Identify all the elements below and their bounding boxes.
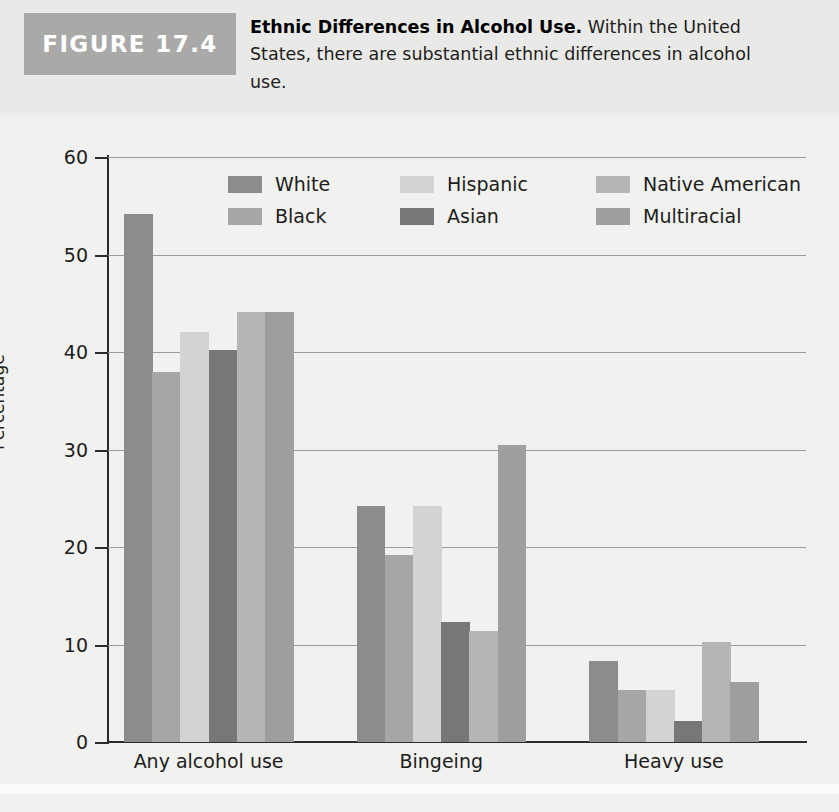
legend-item: Multiracial — [596, 200, 816, 232]
bar — [385, 555, 414, 742]
x-axis-category-label: Bingeing — [400, 750, 484, 772]
x-axis-category-label: Heavy use — [624, 750, 724, 772]
figure-caption: Ethnic Differences in Alcohol Use. Withi… — [250, 14, 790, 96]
bar — [730, 682, 759, 742]
legend-label: Native American — [643, 173, 801, 195]
legend-label: Black — [275, 205, 326, 227]
y-axis-tick — [95, 742, 108, 744]
bar — [646, 690, 675, 742]
figure-number-badge: FIGURE 17.4 — [24, 13, 236, 75]
legend-label: White — [275, 173, 330, 195]
legend-item: White — [228, 168, 400, 200]
legend-swatch-icon — [228, 176, 262, 193]
y-axis-tick-label: 20 — [46, 536, 88, 558]
bar — [618, 690, 647, 742]
legend-swatch-icon — [400, 176, 434, 193]
bar — [441, 622, 470, 742]
figure-page: FIGURE 17.4 Ethnic Differences in Alcoho… — [0, 0, 839, 812]
bar — [498, 445, 527, 742]
bar — [674, 721, 703, 742]
legend-swatch-icon — [596, 176, 630, 193]
y-axis-tick-label: 30 — [46, 439, 88, 461]
legend-label: Asian — [447, 205, 499, 227]
legend-item: Black — [228, 200, 400, 232]
legend-row: BlackAsianMultiracial — [228, 200, 818, 232]
y-axis-tick-label: 40 — [46, 341, 88, 363]
x-axis-category-label: Any alcohol use — [134, 750, 284, 772]
y-axis-tick — [95, 645, 108, 647]
legend-label: Multiracial — [643, 205, 742, 227]
y-axis-tick-label: 50 — [46, 244, 88, 266]
figure-number-label: FIGURE 17.4 — [42, 31, 217, 57]
y-axis-tick-label: 10 — [46, 634, 88, 656]
y-axis-tick — [95, 450, 108, 452]
figure-caption-title: Ethnic Differences in Alcohol Use. — [250, 17, 582, 37]
bar — [152, 372, 181, 743]
y-axis-tick — [95, 255, 108, 257]
legend-label: Hispanic — [447, 173, 528, 195]
bar — [357, 506, 386, 742]
bar — [124, 214, 153, 742]
legend-swatch-icon — [596, 208, 630, 225]
figure-footer-band — [0, 778, 839, 812]
legend-swatch-icon — [228, 208, 262, 225]
bar — [589, 661, 618, 742]
y-axis-tick — [95, 157, 108, 159]
y-axis-tick-label: 60 — [46, 146, 88, 168]
bar — [702, 642, 731, 742]
figure-header-band: FIGURE 17.4 Ethnic Differences in Alcoho… — [0, 0, 839, 118]
y-axis-tick — [95, 352, 108, 354]
bar — [209, 350, 238, 742]
legend-swatch-icon — [400, 208, 434, 225]
plot-area — [108, 157, 806, 742]
y-axis-title: Percentage — [0, 354, 8, 450]
bar — [265, 312, 294, 742]
bar — [469, 631, 498, 742]
bar — [413, 506, 442, 742]
bar — [180, 332, 209, 742]
legend-item: Hispanic — [400, 168, 596, 200]
legend-item: Asian — [400, 200, 596, 232]
bar — [237, 312, 266, 742]
y-axis-tick-label: 0 — [46, 731, 88, 753]
chart-legend: WhiteHispanicNative AmericanBlackAsianMu… — [228, 168, 818, 232]
legend-row: WhiteHispanicNative American — [228, 168, 818, 200]
y-axis-tick — [95, 547, 108, 549]
legend-item: Native American — [596, 168, 816, 200]
